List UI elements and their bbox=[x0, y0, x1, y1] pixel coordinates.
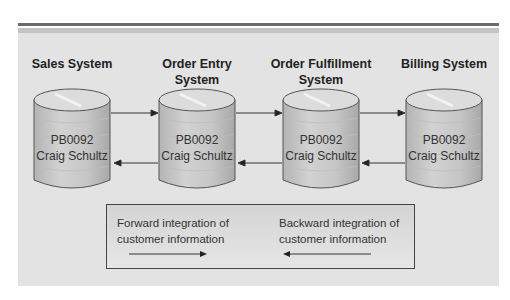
arrowhead-right-icon bbox=[151, 110, 158, 116]
legend-arrows bbox=[107, 205, 414, 268]
arrowhead-left-icon bbox=[362, 160, 369, 166]
arrowhead-right-icon bbox=[398, 110, 405, 116]
arrowhead-left-icon bbox=[283, 251, 290, 257]
arrowhead-right-icon bbox=[200, 251, 207, 257]
arrowhead-right-icon bbox=[275, 110, 282, 116]
arrowhead-left-icon bbox=[114, 160, 121, 166]
arrowhead-left-icon bbox=[238, 160, 245, 166]
legend-box: Forward integration of customer informat… bbox=[106, 204, 415, 269]
